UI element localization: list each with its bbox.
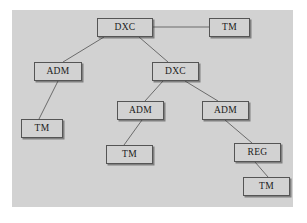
node-tm-left[interactable]: TM [21, 119, 63, 138]
node-dxc-root[interactable]: DXC [97, 18, 153, 37]
node-adm-mid[interactable]: ADM [117, 101, 164, 120]
node-label-tm-left: TM [35, 124, 50, 134]
node-tm-bottom[interactable]: TM [243, 177, 290, 196]
node-label-adm-mid: ADM [129, 106, 152, 116]
node-label-adm-right: ADM [214, 106, 237, 116]
diagram-canvas: DXCTMADMDXCTMADMADMTMREGTM [0, 0, 307, 223]
node-label-tm-mid: TM [122, 150, 137, 160]
node-label-tm-top: TM [222, 23, 237, 33]
node-label-dxc-mid: DXC [165, 67, 186, 77]
node-reg-right[interactable]: REG [234, 143, 281, 162]
node-dxc-mid[interactable]: DXC [152, 62, 199, 81]
node-tm-top[interactable]: TM [209, 18, 250, 37]
node-label-tm-bottom: TM [259, 182, 274, 192]
node-label-dxc-root: DXC [115, 23, 136, 33]
node-tm-mid[interactable]: TM [106, 145, 153, 164]
node-adm-left[interactable]: ADM [34, 62, 82, 81]
node-label-reg-right: REG [248, 148, 268, 158]
node-adm-right[interactable]: ADM [202, 101, 249, 120]
node-label-adm-left: ADM [46, 67, 69, 77]
